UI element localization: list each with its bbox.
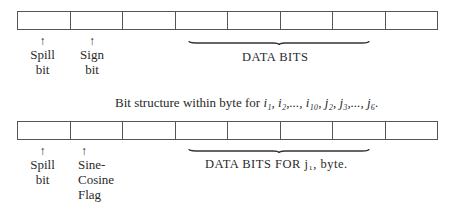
bit-cell-6 <box>281 12 334 29</box>
bit-cell-8 <box>386 122 438 139</box>
bit-cell-1 <box>18 12 71 29</box>
bit-cell-5 <box>228 122 281 139</box>
byte-diagram-1 <box>17 11 438 30</box>
sign-bit-label: ↑ Sign bit <box>76 35 108 77</box>
bit-cell-3 <box>123 122 176 139</box>
bit-cell-3 <box>123 12 176 29</box>
up-arrow-icon: ↑ <box>78 145 118 157</box>
up-arrow-icon: ↑ <box>76 35 108 47</box>
bit-cell-7 <box>333 122 386 139</box>
data-bits-label-1: DATA BITS <box>242 50 308 65</box>
spill-bit-label-2: ↑ Spill bit <box>25 145 60 187</box>
bit-cell-2 <box>71 12 124 29</box>
diagram-caption: Bit structure within byte for i₁, i₂,...… <box>115 95 378 111</box>
bit-cell-6 <box>281 122 334 139</box>
data-bits-brace-2 <box>188 148 370 154</box>
byte-diagram-2 <box>17 121 438 140</box>
data-bits-label-2: DATA BITS FOR j₁, byte. <box>205 157 348 172</box>
sine-cosine-flag-label: ↑ Sine- Cosine Flag <box>78 145 118 202</box>
bit-cell-7 <box>333 12 386 29</box>
up-arrow-icon: ↑ <box>25 145 60 157</box>
up-arrow-icon: ↑ <box>25 35 60 47</box>
bit-cell-2 <box>71 122 124 139</box>
bit-cell-4 <box>176 122 229 139</box>
data-bits-brace-1 <box>188 40 370 46</box>
bit-cell-8 <box>386 12 438 29</box>
bit-cell-5 <box>228 12 281 29</box>
spill-bit-label-1: ↑ Spill bit <box>25 35 60 77</box>
bit-cell-4 <box>176 12 229 29</box>
bit-cell-1 <box>18 122 71 139</box>
